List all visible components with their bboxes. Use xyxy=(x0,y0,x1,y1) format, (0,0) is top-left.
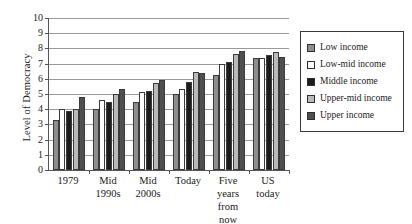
bar xyxy=(73,109,79,170)
bar xyxy=(279,57,285,170)
x-tick-label: US today xyxy=(248,174,288,200)
bar xyxy=(153,83,159,170)
bar-group xyxy=(169,18,209,170)
bar xyxy=(239,51,245,170)
bar xyxy=(119,89,125,170)
bar xyxy=(99,100,105,170)
democracy-bar-chart: Level of Democracy 012345678910 1979Mid … xyxy=(0,0,412,224)
y-tick-label: 0 xyxy=(38,165,43,175)
bar-groups xyxy=(49,18,289,170)
bar-group xyxy=(209,18,249,170)
bar xyxy=(219,64,225,170)
bar xyxy=(106,102,112,170)
bar xyxy=(193,72,199,170)
legend-label: Middle income xyxy=(320,77,378,87)
bar xyxy=(226,62,232,170)
plot-area: 012345678910 xyxy=(48,18,289,171)
bar xyxy=(186,82,192,170)
bar xyxy=(66,111,72,170)
legend-label: Low-mid income xyxy=(320,60,386,70)
bar xyxy=(179,89,185,170)
legend-item: Low income xyxy=(307,39,398,56)
bar xyxy=(133,102,139,170)
bar xyxy=(199,73,205,170)
bar xyxy=(253,58,259,170)
y-tick-label: 2 xyxy=(38,135,43,145)
bar-group xyxy=(129,18,169,170)
x-tick-label: Today xyxy=(168,174,208,187)
bar-group xyxy=(89,18,129,170)
legend-item: Middle income xyxy=(307,73,398,90)
bar xyxy=(146,91,152,170)
y-tick-label: 10 xyxy=(33,13,43,23)
x-tick-mark xyxy=(289,170,290,174)
x-tick-label: Mid 2000s xyxy=(128,174,168,200)
bar xyxy=(173,94,179,170)
legend-item: Upper-mid income xyxy=(307,90,398,107)
bar-group xyxy=(49,18,89,170)
y-tick-label: 6 xyxy=(38,74,43,84)
legend-label: Upper-mid income xyxy=(320,94,392,104)
bar xyxy=(259,58,265,170)
y-tick-label: 7 xyxy=(38,59,43,69)
legend-label: Upper income xyxy=(320,111,374,121)
y-tick-label: 1 xyxy=(38,150,43,160)
bar xyxy=(139,92,145,170)
bar xyxy=(79,97,85,170)
x-tick-label: Five years from now xyxy=(208,174,248,224)
y-tick-label: 3 xyxy=(38,119,43,129)
legend-item: Upper income xyxy=(307,107,398,124)
x-tick-label: Mid 1990s xyxy=(88,174,128,200)
y-tick-label: 8 xyxy=(38,43,43,53)
legend-swatch-icon xyxy=(307,78,315,86)
y-tick-mark xyxy=(45,170,49,171)
legend-swatch-icon xyxy=(307,44,315,52)
x-axis-labels: 1979Mid 1990sMid 2000sTodayFive years fr… xyxy=(48,174,288,218)
x-tick-label: 1979 xyxy=(48,174,88,187)
legend-item: Low-mid income xyxy=(307,56,398,73)
legend-label: Low income xyxy=(320,43,368,53)
legend-swatch-icon xyxy=(307,112,315,120)
legend-swatch-icon xyxy=(307,95,315,103)
bar xyxy=(233,54,239,170)
bar xyxy=(53,120,59,170)
y-tick-label: 5 xyxy=(38,89,43,99)
bar xyxy=(159,80,165,170)
bar-group xyxy=(249,18,289,170)
y-tick-label: 9 xyxy=(38,28,43,38)
bar xyxy=(266,55,272,170)
bar xyxy=(273,52,279,170)
bar xyxy=(93,109,99,170)
legend-swatch-icon xyxy=(307,61,315,69)
legend: Low incomeLow-mid incomeMiddle incomeUpp… xyxy=(300,31,404,132)
bar xyxy=(213,75,219,170)
y-axis-title: Level of Democracy xyxy=(21,28,32,168)
bar xyxy=(113,94,119,170)
bar xyxy=(59,109,65,170)
y-tick-label: 4 xyxy=(38,104,43,114)
